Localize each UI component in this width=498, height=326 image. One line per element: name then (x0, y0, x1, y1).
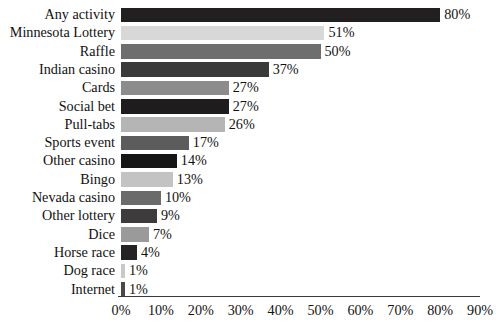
category-label: Dog race (0, 262, 115, 279)
bar-value-label: 9% (161, 207, 180, 224)
category-label: Any activity (0, 6, 115, 23)
bar (121, 209, 157, 224)
bar-row: Horse race4% (0, 244, 498, 262)
bar-row: Other lottery9% (0, 207, 498, 225)
x-axis-tick: 40% (259, 300, 303, 320)
x-axis-tick: 50% (299, 300, 343, 320)
bar (121, 191, 161, 206)
plot-area: Any activity80%Minnesota Lottery51%Raffl… (0, 6, 498, 296)
bar (121, 172, 173, 187)
bar-value-label: 10% (165, 189, 191, 206)
bar (121, 264, 125, 279)
bar-row: Bingo13% (0, 171, 498, 189)
bar (121, 245, 137, 260)
bar (121, 117, 225, 132)
bar (121, 81, 229, 96)
bar-chart: .... . . . Any activity80%Minnesota Lott… (0, 0, 498, 326)
bar (121, 44, 321, 59)
bar-value-label: 14% (181, 152, 207, 169)
bar-value-label: 37% (273, 61, 299, 78)
bar (121, 99, 229, 114)
x-axis-line (118, 296, 480, 297)
bar-value-label: 4% (141, 244, 160, 261)
category-label: Dice (0, 226, 115, 243)
x-axis-tick: 10% (139, 300, 183, 320)
bar (121, 62, 269, 77)
category-label: Horse race (0, 244, 115, 261)
bar-value-label: 27% (233, 98, 259, 115)
bar-row: Pull-tabs26% (0, 116, 498, 134)
category-label: Pull-tabs (0, 116, 115, 133)
x-axis-tick: 90% (458, 300, 498, 320)
bar (121, 154, 177, 169)
bar (121, 282, 125, 297)
category-label: Cards (0, 79, 115, 96)
bar-value-label: 51% (328, 24, 354, 41)
bar-row: Other casino14% (0, 152, 498, 170)
x-axis-tick: 70% (378, 300, 422, 320)
bar (121, 8, 440, 23)
bar-row: Dog race1% (0, 262, 498, 280)
bar (121, 227, 149, 242)
bar-row: Dice7% (0, 226, 498, 244)
x-axis-tick-labels: 0%10%20%30%40%50%60%70%80%90% (0, 300, 498, 324)
bar-row: Minnesota Lottery51% (0, 24, 498, 42)
bar-value-label: 1% (129, 281, 148, 298)
bar-value-label: 27% (233, 79, 259, 96)
category-label: Indian casino (0, 61, 115, 78)
category-label: Sports event (0, 134, 115, 151)
category-label: Other lottery (0, 207, 115, 224)
bar-row: Any activity80% (0, 6, 498, 24)
category-label: Minnesota Lottery (0, 24, 115, 41)
bar-value-label: 7% (153, 226, 172, 243)
bar (121, 136, 189, 151)
category-label: Bingo (0, 171, 115, 188)
x-axis-tick: 0% (99, 300, 143, 320)
x-axis-tick: 80% (418, 300, 462, 320)
bar-value-label: 80% (444, 6, 470, 23)
category-label: Social bet (0, 98, 115, 115)
bar-value-label: 50% (325, 43, 351, 60)
category-label: Raffle (0, 43, 115, 60)
bar-row: Indian casino37% (0, 61, 498, 79)
category-label: Other casino (0, 152, 115, 169)
bar-value-label: 1% (129, 262, 148, 279)
bar-value-label: 17% (193, 134, 219, 151)
bar-row: Raffle50% (0, 43, 498, 61)
x-axis-tick: 20% (179, 300, 223, 320)
bar-value-label: 26% (229, 116, 255, 133)
bar-row: Cards27% (0, 79, 498, 97)
bar-row: Social bet27% (0, 98, 498, 116)
bar-row: Sports event17% (0, 134, 498, 152)
x-axis-tick: 60% (338, 300, 382, 320)
bar-row: Nevada casino10% (0, 189, 498, 207)
bar-value-label: 13% (177, 171, 203, 188)
category-label: Nevada casino (0, 189, 115, 206)
category-label: Internet (0, 281, 115, 298)
bar (121, 26, 324, 41)
x-axis-tick: 30% (219, 300, 263, 320)
cropped-title-remnant: .... . . . (150, 0, 400, 4)
